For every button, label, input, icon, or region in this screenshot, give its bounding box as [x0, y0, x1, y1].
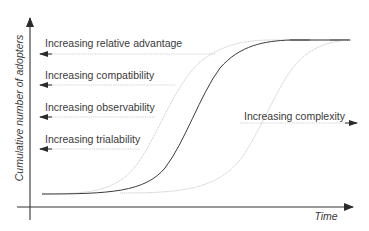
y-axis-label: Cumulative number of adopters [13, 34, 25, 181]
factor-labels: Increasing relative advantage Increasing… [45, 37, 346, 145]
adoption-curve-diagram: Increasing relative advantage Increasing… [0, 0, 369, 231]
label-complexity: Increasing complexity [244, 110, 346, 122]
label-trialability: Increasing trialability [45, 133, 141, 145]
label-compatibility: Increasing compatibility [45, 69, 155, 81]
label-relative-advantage: Increasing relative advantage [45, 37, 182, 49]
label-observability: Increasing observability [45, 101, 155, 113]
x-axis-label: Time [314, 210, 337, 222]
